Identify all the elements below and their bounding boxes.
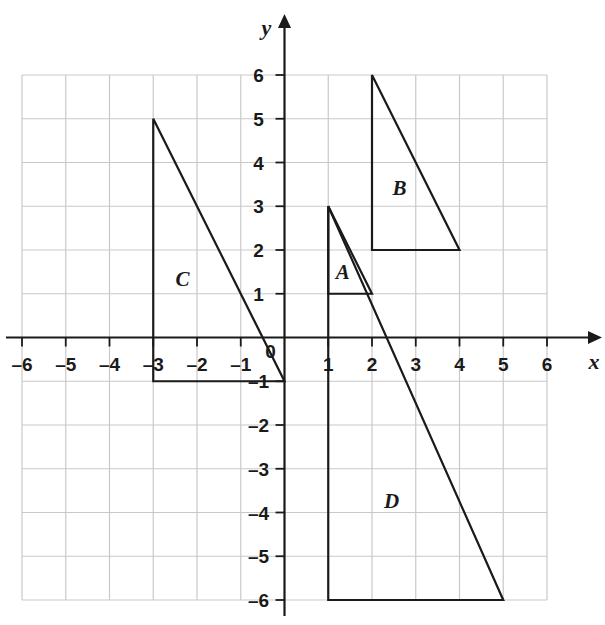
x-axis-tick-label: 4 xyxy=(454,354,465,373)
y-axis-arrowhead xyxy=(278,14,291,28)
x-axis-tick-label: –3 xyxy=(143,354,164,373)
x-axis-tick-label: –2 xyxy=(186,354,207,373)
y-axis-tick-label: –5 xyxy=(248,547,269,566)
coordinate-plane-figure: –6–5–4–3–2–10123456654321–1–2–3–4–5–6yxA… xyxy=(0,0,605,625)
axes-group xyxy=(6,14,602,616)
y-axis-tick-label: 4 xyxy=(253,153,264,172)
y-axis-tick-label: 1 xyxy=(253,284,264,303)
x-axis-tick-label: –6 xyxy=(11,354,32,373)
x-axis-tick-label: 6 xyxy=(542,354,553,373)
y-axis-tick-label: 6 xyxy=(253,66,264,85)
y-axis-tick-label: –1 xyxy=(248,372,269,391)
x-axis-tick-label: –5 xyxy=(55,354,76,373)
y-axis-tick-label: 3 xyxy=(253,197,264,216)
coordinate-plane-svg xyxy=(0,0,605,625)
x-axis-tick-label: 3 xyxy=(410,354,421,373)
x-axis-tick-label: –4 xyxy=(99,354,120,373)
triangle-label-c: C xyxy=(176,269,190,290)
x-axis-tick-label: 2 xyxy=(367,354,378,373)
x-axis-tick-label-0: 0 xyxy=(265,341,276,360)
y-axis-label: y xyxy=(262,17,272,39)
triangle-label-d: D xyxy=(384,490,399,511)
y-axis-tick-label: –6 xyxy=(248,591,269,610)
x-axis-tick-label: 1 xyxy=(323,354,334,373)
x-axis-label: x xyxy=(589,351,600,373)
x-axis-tick-label: 5 xyxy=(498,354,509,373)
triangle-label-a: A xyxy=(336,261,350,282)
triangle-label-b: B xyxy=(393,177,407,198)
y-axis-tick-label: 2 xyxy=(253,241,264,260)
y-axis-tick-label: 5 xyxy=(253,109,264,128)
y-axis-tick-label: –2 xyxy=(248,416,269,435)
x-axis-arrowhead xyxy=(588,331,602,344)
y-axis-tick-label: –3 xyxy=(248,459,269,478)
y-axis-tick-label: –4 xyxy=(248,503,269,522)
